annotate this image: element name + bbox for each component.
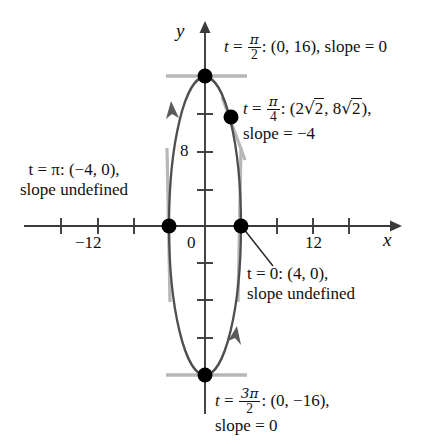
figure-canvas bbox=[0, 0, 446, 444]
callout-t-pi: t = π: (−4, 0), slope undefined bbox=[20, 160, 128, 200]
radical-two-b: √2 bbox=[341, 98, 361, 119]
callout-bottom-equals: = bbox=[224, 391, 234, 410]
callout-top-t: t bbox=[224, 37, 229, 56]
fraction-three-pi-over-two: 3π 2 bbox=[239, 387, 261, 416]
callout-ur-point-close: ), bbox=[362, 99, 372, 118]
x-tick-label-12: 12 bbox=[305, 233, 322, 253]
y-axis-label: y bbox=[176, 20, 184, 42]
y-axis-arrowhead bbox=[200, 21, 211, 33]
callout-ur-equals: = bbox=[252, 99, 262, 118]
callout-bottom-t: t bbox=[215, 391, 220, 410]
direction-arrow-upper-left bbox=[166, 101, 179, 119]
fraction-pi-over-four: π 4 bbox=[267, 95, 280, 124]
callout-top-equals: = bbox=[233, 37, 243, 56]
fraction-numerator: 3π bbox=[239, 387, 261, 402]
callout-top-point: : (0, 16), slope = 0 bbox=[262, 37, 387, 56]
callout-lower-right-line1: t = 0: (4, 0), bbox=[247, 264, 355, 284]
fraction-numerator: π bbox=[267, 95, 280, 110]
radicand: 2 bbox=[314, 98, 325, 119]
callout-t-pi-over-two: t = π 2 : (0, 16), slope = 0 bbox=[224, 33, 387, 62]
callout-left-line1: t = π: (−4, 0), bbox=[20, 160, 128, 180]
x-axis-label: x bbox=[383, 229, 391, 251]
point-t-pi-over-two bbox=[198, 69, 213, 84]
callout-left-line2: slope undefined bbox=[20, 180, 128, 200]
y-tick-label-8: 8 bbox=[180, 141, 189, 161]
callout-t-three-pi-over-two: t = 3π 2 : (0, −16), slope = 0 bbox=[215, 387, 330, 436]
point-t-zero bbox=[234, 219, 249, 234]
callout-t-pi-over-four: t = π 4 : (2√2, 8√2), slope = −4 bbox=[243, 95, 372, 144]
x-tick-label-zero: 0 bbox=[187, 233, 196, 253]
fraction-denominator: 2 bbox=[239, 402, 261, 416]
callout-ur-t: t bbox=[243, 99, 248, 118]
callout-bottom-line2: slope = 0 bbox=[215, 416, 330, 436]
fraction-numerator: π bbox=[248, 33, 261, 48]
callout-upper-right-line1: t = π 4 : (2√2, 8√2), bbox=[243, 95, 372, 124]
callout-bottom-point: : (0, −16), bbox=[261, 391, 329, 410]
callout-bottom-line1: t = 3π 2 : (0, −16), bbox=[215, 387, 330, 416]
x-tick-label-negative-12: −12 bbox=[75, 233, 102, 253]
callout-ur-point-open: : (2 bbox=[281, 99, 304, 118]
callout-upper-right-line2: slope = −4 bbox=[243, 124, 372, 144]
radicand: 2 bbox=[351, 98, 362, 119]
callout-lower-right-line2: slope undefined bbox=[247, 284, 355, 304]
fraction-pi-over-two: π 2 bbox=[248, 33, 261, 62]
radical-two-a: √2 bbox=[304, 98, 324, 119]
x-axis-arrowhead bbox=[390, 221, 402, 232]
callout-t-zero: t = 0: (4, 0), slope undefined bbox=[247, 264, 355, 304]
point-t-three-pi-over-two bbox=[198, 368, 213, 383]
fraction-denominator: 4 bbox=[267, 110, 280, 124]
callout-ur-point-mid: , 8 bbox=[324, 99, 341, 118]
point-t-pi-over-four bbox=[224, 110, 239, 125]
point-t-pi bbox=[162, 219, 177, 234]
leader-line-t-zero bbox=[243, 228, 273, 266]
parametric-curve-figure: y x −12 0 12 8 t = π 2 : (0, 16), slope … bbox=[0, 0, 446, 444]
fraction-denominator: 2 bbox=[248, 48, 261, 62]
